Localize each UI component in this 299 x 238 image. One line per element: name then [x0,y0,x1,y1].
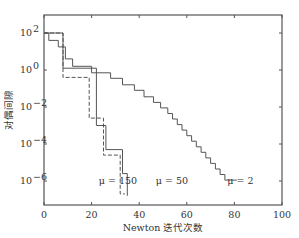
x-tick-label: 20 [86,209,98,220]
series-line [44,33,125,194]
x-tick-label: 80 [228,209,240,220]
chart-canvas: μ = 150μ = 50μ = 2 020406080100 10210010… [0,0,299,238]
y-tick-exponent: 2 [33,23,39,34]
y-axis-title: 对偶间隙 [3,90,14,130]
x-tick-label: 60 [181,209,193,220]
y-tick-exponent: −2 [33,97,47,108]
y-tick-label: 10 [20,175,32,186]
x-axis-title: Newton 迭代次数 [123,222,204,233]
y-axis-ticks: 10210010−210−410−6 [20,23,282,186]
y-tick-exponent: 0 [33,60,39,71]
series-line [44,33,127,196]
series-annotation: μ = 50 [156,175,188,186]
series-layer [44,33,237,196]
x-tick-label: 100 [273,209,291,220]
series-annotation: μ = 2 [227,175,253,186]
y-tick-label: 10 [20,138,32,149]
y-tick-exponent: −4 [33,134,47,145]
x-tick-label: 40 [133,209,145,220]
series-line [44,33,237,180]
series-annotation: μ = 150 [99,175,137,186]
y-tick-exponent: −6 [33,171,47,182]
x-axis-ticks: 020406080100 [41,15,291,220]
x-tick-label: 0 [41,209,47,220]
annotations: μ = 150μ = 50μ = 2 [99,175,254,186]
y-tick-label: 10 [20,101,32,112]
y-tick-label: 10 [20,64,32,75]
y-tick-label: 10 [20,27,32,38]
